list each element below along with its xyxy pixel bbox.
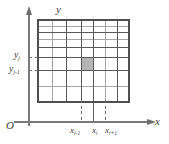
y-tick-label-yj: yj	[14, 51, 20, 61]
x-tick-label-xi-plus-1: xi+1	[105, 126, 117, 135]
y-axis-label: y	[56, 4, 61, 15]
origin-label: O	[6, 120, 14, 131]
y-tick-sub-yj: j	[18, 55, 20, 61]
highlighted-cell	[81, 57, 93, 70]
y-tick-sub-yj-minus-1: j-1	[13, 69, 20, 75]
y-axis-arrowhead	[26, 6, 32, 15]
x-tick-label-xi: xi	[92, 126, 98, 135]
diagram-canvas	[0, 0, 169, 144]
x-tick-sub-xi-plus-1: i+1	[109, 130, 117, 136]
x-axis-label: x	[155, 116, 160, 127]
figure-coordinate-grid: y x O yj yj-1 xi-1 xi xi+1	[0, 0, 169, 144]
y-tick-label-yj-minus-1: yj-1	[9, 65, 20, 75]
x-tick-sub-xi: i	[96, 130, 98, 136]
x-tick-label-xi-minus-1: xi-1	[70, 126, 80, 135]
x-tick-sub-xi-minus-1: i-1	[74, 130, 80, 136]
